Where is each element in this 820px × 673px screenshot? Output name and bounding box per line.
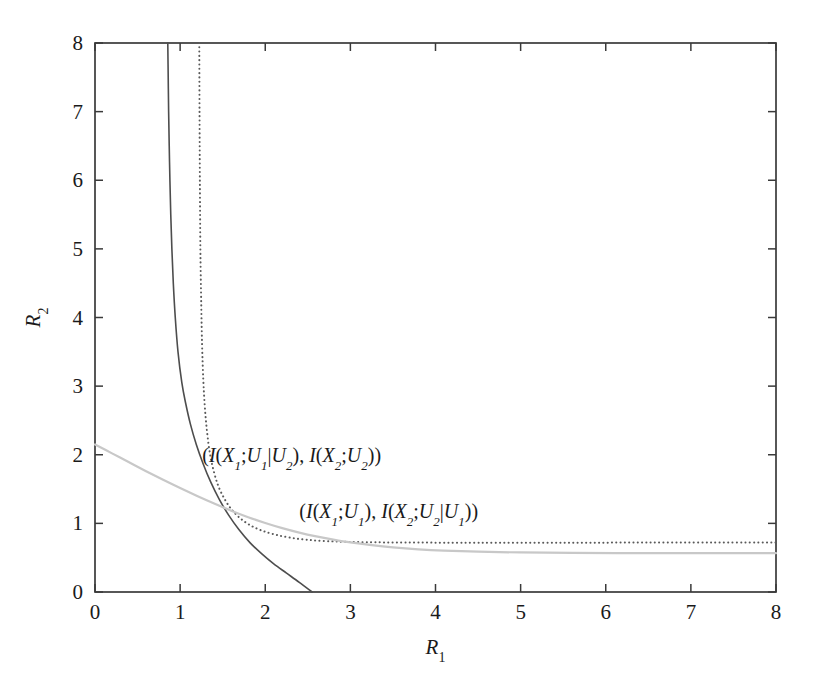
y-axis-tick-labels: 012345678	[73, 31, 84, 604]
x-tick-label: 0	[90, 600, 101, 624]
x-tick-label: 8	[771, 600, 782, 624]
x-tick-label: 6	[601, 600, 612, 624]
y-tick-label: 0	[73, 580, 84, 604]
x-tick-label: 3	[345, 600, 356, 624]
y-tick-label: 3	[73, 374, 84, 398]
x-tick-label: 1	[175, 600, 186, 624]
chart-background	[0, 0, 820, 673]
x-tick-label: 4	[430, 600, 441, 624]
y-tick-label: 7	[73, 100, 84, 124]
y-tick-label: 8	[73, 31, 84, 55]
x-tick-label: 5	[515, 600, 526, 624]
x-tick-label: 7	[686, 600, 697, 624]
y-tick-label: 1	[73, 511, 84, 535]
x-tick-label: 2	[260, 600, 271, 624]
rate-region-chart: 012345678 012345678 (I(X1;U1|U2), I(X2;U…	[0, 0, 820, 673]
y-tick-label: 5	[73, 237, 84, 261]
y-tick-label: 2	[73, 443, 84, 467]
y-tick-label: 4	[73, 306, 84, 330]
figure-container: 012345678 012345678 (I(X1;U1|U2), I(X2;U…	[0, 0, 820, 673]
y-tick-label: 6	[73, 168, 84, 192]
